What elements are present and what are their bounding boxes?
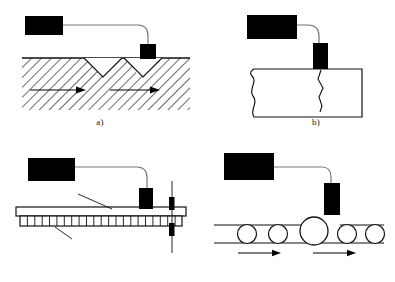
caption-a: a) xyxy=(80,117,120,127)
instrument-box-a[interactable] xyxy=(25,16,63,35)
panel-d-drawing xyxy=(200,143,395,263)
sphere-3-oversized xyxy=(300,217,328,245)
probe-block-d[interactable] xyxy=(324,183,340,215)
cable-a xyxy=(63,25,148,44)
cable-b xyxy=(297,25,319,43)
sphere-2 xyxy=(269,225,288,244)
caption-b: b) xyxy=(296,117,336,127)
figure-container: a) b) xyxy=(0,0,395,282)
nonconductor-layer xyxy=(16,207,186,216)
instrument-box-c[interactable] xyxy=(28,158,75,181)
panel-a: a) xyxy=(0,0,200,118)
probe-block-c[interactable] xyxy=(139,188,153,209)
conductor-layer xyxy=(20,216,182,226)
panel-b: b) xyxy=(200,0,395,118)
leader-line-conductor xyxy=(55,227,72,239)
sphere-5 xyxy=(366,225,385,244)
sphere-4 xyxy=(338,225,357,244)
panel-a-drawing xyxy=(0,0,200,118)
cable-c xyxy=(75,167,147,188)
probe-block-a[interactable] xyxy=(140,44,156,59)
flow-arrow-d-2 xyxy=(313,250,356,256)
panel-b-drawing xyxy=(200,0,395,118)
panel-c: 非导体 导体 c) xyxy=(0,143,200,263)
workpiece-block-b xyxy=(251,69,362,117)
probe-block-b[interactable] xyxy=(313,43,328,69)
sphere-1 xyxy=(238,225,257,244)
instrument-box-d[interactable] xyxy=(224,153,274,180)
panel-d: d) xyxy=(200,143,395,263)
flow-arrow-d-1 xyxy=(238,250,281,256)
panel-c-drawing xyxy=(0,143,200,263)
cable-d xyxy=(274,167,331,183)
instrument-box-b[interactable] xyxy=(247,15,297,39)
